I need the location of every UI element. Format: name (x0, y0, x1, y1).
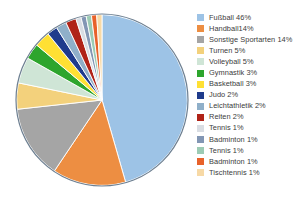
legend-item[interactable]: Fußball 46% (197, 12, 304, 23)
legend-color-swatch (197, 136, 204, 143)
legend-item-label: Leichtathletik 2% (209, 102, 266, 110)
legend-item-label: Judo 2% (209, 91, 238, 99)
legend-color-swatch (197, 92, 204, 99)
pie-plot-area (14, 10, 190, 190)
legend-item-label: Reiten 2% (209, 113, 244, 121)
legend-color-swatch (197, 158, 204, 165)
legend-item-label: Turnen 5% (209, 47, 245, 55)
legend-color-swatch (197, 58, 204, 65)
legend-item[interactable]: Basketball 3% (197, 79, 304, 90)
legend-item-label: Basketball 3% (209, 80, 256, 88)
legend-color-swatch (197, 147, 204, 154)
legend-item[interactable]: Badminton 1% (197, 134, 304, 145)
legend-item-label: Tennis 1% (209, 147, 244, 155)
legend-color-swatch (197, 114, 204, 121)
legend-color-swatch (197, 70, 204, 77)
legend-item[interactable]: Badminton 1% (197, 156, 304, 167)
legend-item[interactable]: Tischtennis 1% (197, 167, 304, 178)
legend-item-label: Gymnastik 3% (209, 69, 257, 77)
legend-item-label: Tennis 1% (209, 124, 244, 132)
legend-item[interactable]: Sonstige Sportarten 14% (197, 34, 304, 45)
legend-color-swatch (197, 169, 204, 176)
legend-item[interactable]: Judo 2% (197, 90, 304, 101)
legend-item-label: Volleyball 5% (209, 58, 254, 66)
legend-item[interactable]: Gymnastik 3% (197, 67, 304, 78)
legend-item[interactable]: Volleyball 5% (197, 56, 304, 67)
legend-color-swatch (197, 47, 204, 54)
legend-item-label: Badminton 1% (209, 158, 258, 166)
legend-item-label: Handball14% (209, 25, 254, 33)
legend-color-swatch (197, 103, 204, 110)
legend-item-label: Fußball 46% (209, 14, 251, 22)
legend-item[interactable]: Tennis 1% (197, 145, 304, 156)
legend-item[interactable]: Handball14% (197, 23, 304, 34)
legend-color-swatch (197, 36, 204, 43)
legend-item[interactable]: Tennis 1% (197, 123, 304, 134)
legend-item-label: Badminton 1% (209, 136, 258, 144)
legend-color-swatch (197, 81, 204, 88)
legend-color-swatch (197, 14, 204, 21)
legend-color-swatch (197, 25, 204, 32)
legend-item-label: Sonstige Sportarten 14% (209, 36, 292, 44)
legend-item-label: Tischtennis 1% (209, 169, 260, 177)
legend-item[interactable]: Turnen 5% (197, 45, 304, 56)
pie-chart-figure: Fußball 46%Handball14%Sonstige Sportarte… (0, 0, 304, 198)
legend-item[interactable]: Reiten 2% (197, 112, 304, 123)
chart-legend: Fußball 46%Handball14%Sonstige Sportarte… (197, 12, 304, 188)
legend-item[interactable]: Leichtathletik 2% (197, 101, 304, 112)
pie-svg (14, 10, 190, 190)
pie-slice-group (17, 15, 188, 186)
legend-color-swatch (197, 125, 204, 132)
